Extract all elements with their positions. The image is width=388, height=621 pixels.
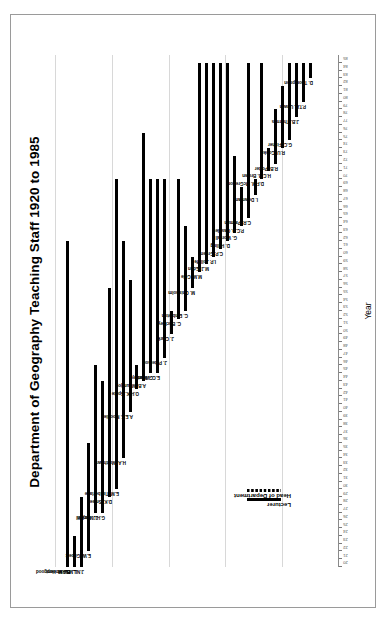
axis-tick (339, 395, 342, 396)
staff-label: C. Embleton (162, 313, 188, 318)
staff-label: C.R. Patman (224, 220, 251, 225)
axis-tick (339, 62, 342, 63)
staff-bar (163, 179, 166, 357)
axis-tick (339, 132, 342, 133)
axis-tick-label: 40 (343, 405, 348, 410)
axis-tick (339, 170, 342, 171)
staff-bar (87, 443, 90, 552)
axis-tick-label: 36 (343, 436, 348, 441)
axis-tick (339, 186, 342, 187)
axis-tick-label: 72 (343, 157, 348, 162)
staff-bar (281, 86, 284, 148)
axis-tick (339, 519, 342, 520)
axis-tick (339, 333, 342, 334)
legend-label-head: Head of Department (234, 493, 291, 499)
staff-label: O.H.K. Spate (112, 391, 139, 396)
staff-bar (122, 241, 125, 458)
axis-tick-label: 71 (343, 165, 348, 170)
axis-tick-label: 45 (343, 366, 348, 371)
axis-tick-label: 26 (343, 514, 348, 519)
axis-tick-label: 31 (343, 475, 348, 480)
axis-tick-label: 49 (343, 335, 348, 340)
axis-tick-label: 75 (343, 134, 348, 139)
axis-tick-label: 56 (343, 281, 348, 286)
axis-tick (339, 155, 342, 156)
axis-tick-label: 59 (343, 258, 348, 263)
axis-tick (339, 302, 342, 303)
axis-tick (339, 388, 342, 389)
axis-tick-label: 61 (343, 242, 348, 247)
axis-tick (339, 124, 342, 125)
axis-tick-label: 66 (343, 204, 348, 209)
axis-tick (339, 372, 342, 373)
axis-tick-label: 41 (343, 398, 348, 403)
screenshot-root: Department of Geography Teaching Staff 1… (0, 0, 388, 621)
axis-tick-label: 57 (343, 273, 348, 278)
axis-tick-label: 29 (343, 491, 348, 496)
legend-swatch-head (247, 489, 281, 492)
axis-tick-label: 67 (343, 196, 348, 201)
staff-bar (274, 109, 277, 163)
axis-tick-label: 22 (343, 545, 348, 550)
axis-tick (339, 194, 342, 195)
axis-tick (339, 341, 342, 342)
axis-tick (339, 419, 342, 420)
axis-tick-label: 81 (343, 87, 348, 92)
axis-tick-label: 84 (343, 64, 348, 69)
axis-tick-label: 85 (343, 56, 348, 61)
staff-label: G. Worrall (215, 235, 236, 240)
axis-tick (339, 77, 342, 78)
x-axis: 2021222324252627282930313233343536373839… (339, 55, 373, 567)
staff-label: E.C. Willatts (134, 375, 160, 380)
staff-bar (247, 63, 250, 218)
staff-bar (108, 288, 111, 497)
staff-label: J.B. Thornes (272, 119, 299, 124)
staff-bar (149, 179, 152, 373)
axis-tick-label: 65 (343, 211, 348, 216)
staff-bar (184, 226, 187, 311)
axis-tick (339, 504, 342, 505)
axis-tick (339, 543, 342, 544)
staff-bar (260, 63, 263, 179)
staff-label: R.B. Potter (255, 166, 278, 171)
staff-bar (205, 63, 208, 265)
axis-tick (339, 256, 342, 257)
staff-label: I.P. Jolliffe (194, 259, 216, 264)
axis-tick (339, 403, 342, 404)
axis-tick (339, 426, 342, 427)
axis-tick (339, 442, 342, 443)
axis-tick (339, 201, 342, 202)
axis-tick-label: 32 (343, 467, 348, 472)
axis-tick (339, 248, 342, 249)
axis-tick-label: 33 (343, 460, 348, 465)
axis-tick (339, 566, 342, 567)
axis-tick-label: 82 (343, 79, 348, 84)
staff-label: C.P. Green (200, 251, 222, 256)
axis-tick-label: 51 (343, 320, 348, 325)
axis-tick-label: 30 (343, 483, 348, 488)
axis-tick-label: 34 (343, 452, 348, 457)
legend-label-lecturer: Lecturer (267, 502, 291, 508)
axis-tick-label: 35 (343, 444, 348, 449)
axis-tick (339, 108, 342, 109)
staff-label: G.C. Fisher (268, 142, 292, 147)
staff-label: G.H.J. Daysh (77, 515, 105, 520)
axis-tick-label: 43 (343, 382, 348, 387)
axis-tick-label: 27 (343, 506, 348, 511)
axis-tick (339, 551, 342, 552)
axis-tick (339, 535, 342, 536)
axis-tick (339, 70, 342, 71)
axis-tick-label: 58 (343, 266, 348, 271)
axis-tick-label: 23 (343, 537, 348, 542)
staff-label: P.C.D. Casplet (214, 228, 244, 233)
axis-tick (339, 473, 342, 474)
staff-label: D.F.M. McGregor (229, 181, 265, 186)
axis-tick-label: 64 (343, 219, 348, 224)
axis-tick-label: 21 (343, 553, 348, 558)
x-axis-label: Year (363, 55, 373, 567)
staff-label: E.W. Gilbert (66, 554, 91, 559)
staff-label: A.E.F. Moodie (103, 414, 132, 419)
axis-tick (339, 326, 342, 327)
staff-bar (309, 63, 312, 79)
axis-tick (339, 93, 342, 94)
